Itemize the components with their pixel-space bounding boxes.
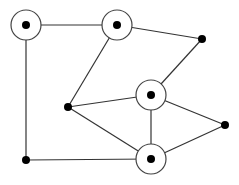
node-dot-icon xyxy=(22,21,30,29)
graph-diagram xyxy=(0,0,239,185)
node-E xyxy=(64,103,72,111)
node-dot-icon xyxy=(113,21,121,29)
node-D xyxy=(136,80,166,110)
node-dot-icon xyxy=(147,91,155,99)
edge-H-G xyxy=(26,159,151,160)
node-dot-icon xyxy=(22,156,30,164)
node-H xyxy=(22,156,30,164)
node-B xyxy=(102,10,132,40)
node-dot-icon xyxy=(147,155,155,163)
node-F xyxy=(221,121,229,129)
node-A xyxy=(11,10,41,40)
nodes xyxy=(11,10,229,174)
node-G xyxy=(136,144,166,174)
node-dot-icon xyxy=(221,121,229,129)
node-C xyxy=(198,35,206,43)
node-dot-icon xyxy=(64,103,72,111)
edges xyxy=(26,25,225,160)
node-dot-icon xyxy=(198,35,206,43)
